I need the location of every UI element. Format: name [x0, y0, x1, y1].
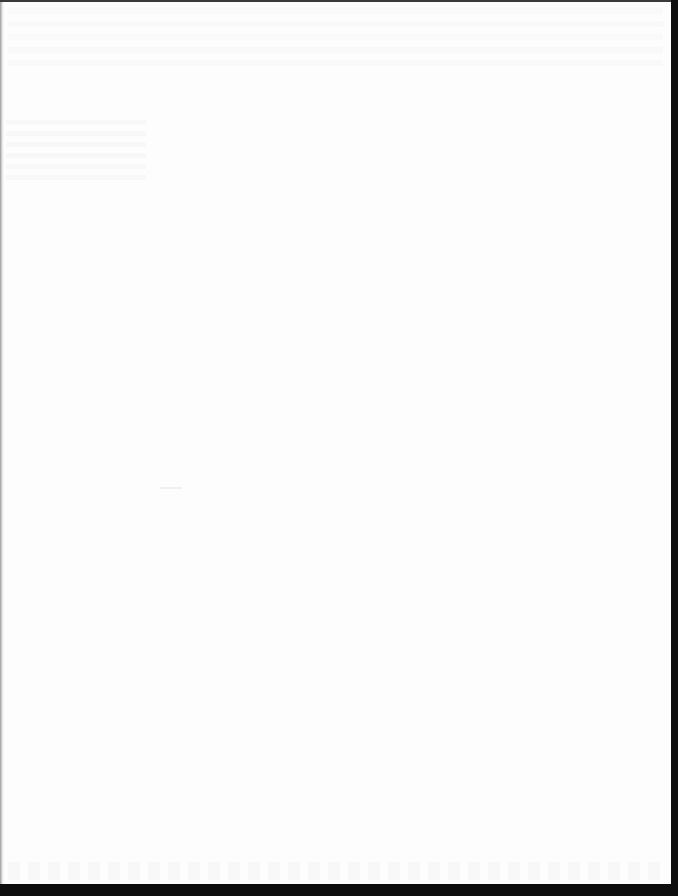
- scanner-border-bottom: [0, 884, 678, 896]
- show-through-text-bottom: [8, 862, 663, 880]
- blank-page: Blank page: [0, 0, 671, 884]
- scanned-page-frame: Blank page: [0, 0, 678, 896]
- left-edge-shadow: [0, 2, 4, 884]
- show-through-text-left: [6, 120, 146, 180]
- scanner-border-right: [671, 0, 678, 896]
- faint-mark: [160, 487, 182, 489]
- show-through-text-top: [8, 8, 663, 68]
